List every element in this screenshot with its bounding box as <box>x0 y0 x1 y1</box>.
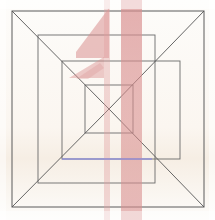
pink-band-narrow <box>104 0 110 220</box>
paper-edge-bottom <box>0 211 215 220</box>
pink-band-wide <box>121 0 142 220</box>
figure-canvas: Nested squares one-point perspective ske… <box>0 0 215 220</box>
paper-edge-top <box>0 0 215 9</box>
paper-edge-right <box>209 0 215 220</box>
perspective-figure <box>0 0 215 220</box>
paper-edge-left <box>0 0 6 220</box>
